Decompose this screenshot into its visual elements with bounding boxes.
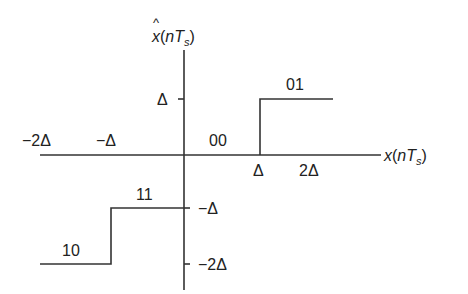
x-tick-2delta: 2Δ	[299, 162, 319, 179]
x-axis-label: x(nTs)	[383, 147, 427, 167]
x-tick-minus-2delta: −2Δ	[22, 132, 51, 149]
y-axis-label: x(nTs)	[151, 28, 195, 48]
code-label-00: 00	[209, 132, 227, 149]
x-tick-minus-delta: −Δ	[96, 132, 116, 149]
code-label-11: 11	[136, 186, 153, 203]
quantizer-diagram: x(nTs) ^ x(nTs) −2Δ −Δ Δ 2Δ Δ −Δ −2Δ 01 …	[0, 0, 468, 294]
step-01	[260, 99, 333, 155]
code-label-01: 01	[286, 76, 304, 93]
code-label-10: 10	[62, 242, 80, 259]
y-tick-label-minus-2delta: −2Δ	[198, 256, 227, 273]
x-tick-delta: Δ	[253, 162, 264, 179]
y-tick-label-minus-delta: −Δ	[198, 200, 218, 217]
y-tick-label-delta: Δ	[157, 91, 168, 108]
hat-icon: ^	[153, 15, 160, 30]
